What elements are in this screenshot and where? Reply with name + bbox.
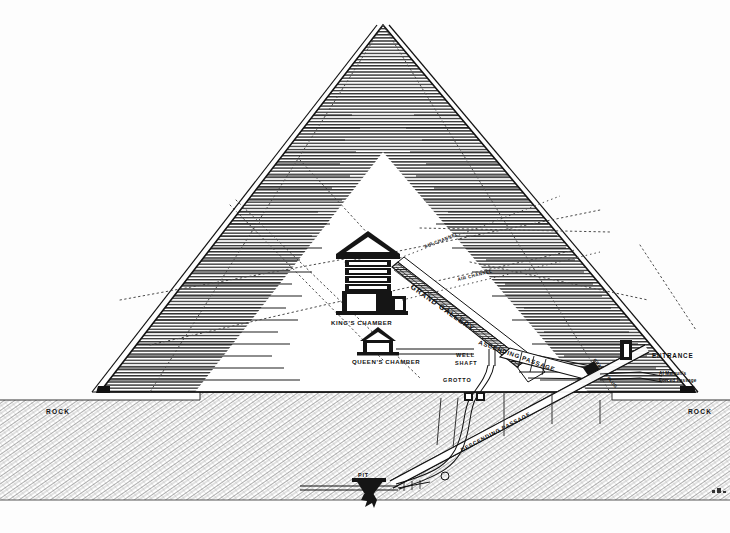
label-well-shaft-line1: WELL bbox=[456, 352, 475, 358]
base-corner-right bbox=[680, 386, 696, 393]
label-pit: PIT bbox=[358, 472, 369, 478]
label-grotto: GROTTO bbox=[443, 377, 472, 383]
pyramid-cross-section-diagram: KING'S CHAMBER QUEEN'S CHAMBER GRAND GAL… bbox=[0, 0, 730, 533]
label-al-mamun-line2: Forced Passage bbox=[659, 378, 697, 383]
label-entrance: ENTRANCE bbox=[652, 352, 693, 359]
label-queens-chamber: QUEEN'S CHAMBER bbox=[352, 358, 420, 365]
label-al-mamun-line1: Al Mamun's bbox=[659, 371, 686, 376]
label-kings-chamber: KING'S CHAMBER bbox=[331, 319, 392, 326]
base-corner-left bbox=[96, 386, 110, 393]
diagram-canvas: KING'S CHAMBER QUEEN'S CHAMBER GRAND GAL… bbox=[0, 0, 730, 533]
label-rock-left: ROCK bbox=[46, 408, 70, 415]
label-rock-right: ROCK bbox=[688, 408, 712, 415]
label-well-shaft-line2: SHAFT bbox=[455, 360, 478, 366]
